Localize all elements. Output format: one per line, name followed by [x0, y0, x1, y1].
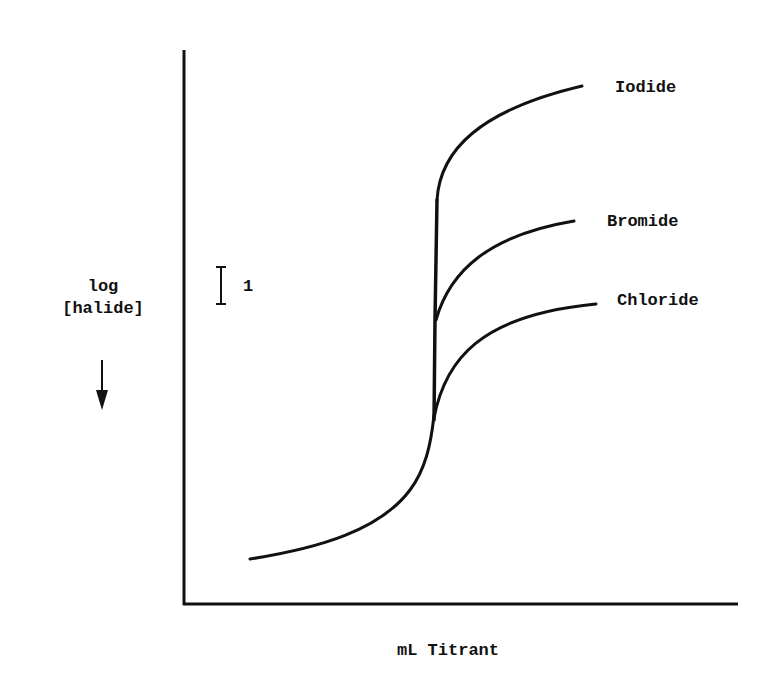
curve-equivalence-rise	[434, 200, 437, 420]
curve-bromide	[436, 221, 574, 320]
y-axis-label-line2: [halide]	[50, 298, 156, 320]
series-label-chloride: Chloride	[617, 291, 699, 310]
scale-bar-label: 1	[243, 277, 253, 296]
curve-iodide	[437, 86, 582, 200]
down-arrow-icon	[96, 360, 108, 410]
y-axis-label: log [halide]	[50, 276, 156, 320]
scale-bar	[216, 267, 226, 304]
curve-chloride	[434, 304, 596, 418]
y-axis-label-line1: log	[50, 276, 156, 298]
x-axis-label: mL Titrant	[397, 641, 499, 660]
series-label-bromide: Bromide	[607, 212, 678, 231]
curve-common-branch	[250, 415, 434, 559]
series-label-iodide: Iodide	[615, 78, 676, 97]
titration-chart: 1 Iodide Bromide Chloride mL Titrant	[0, 0, 777, 674]
